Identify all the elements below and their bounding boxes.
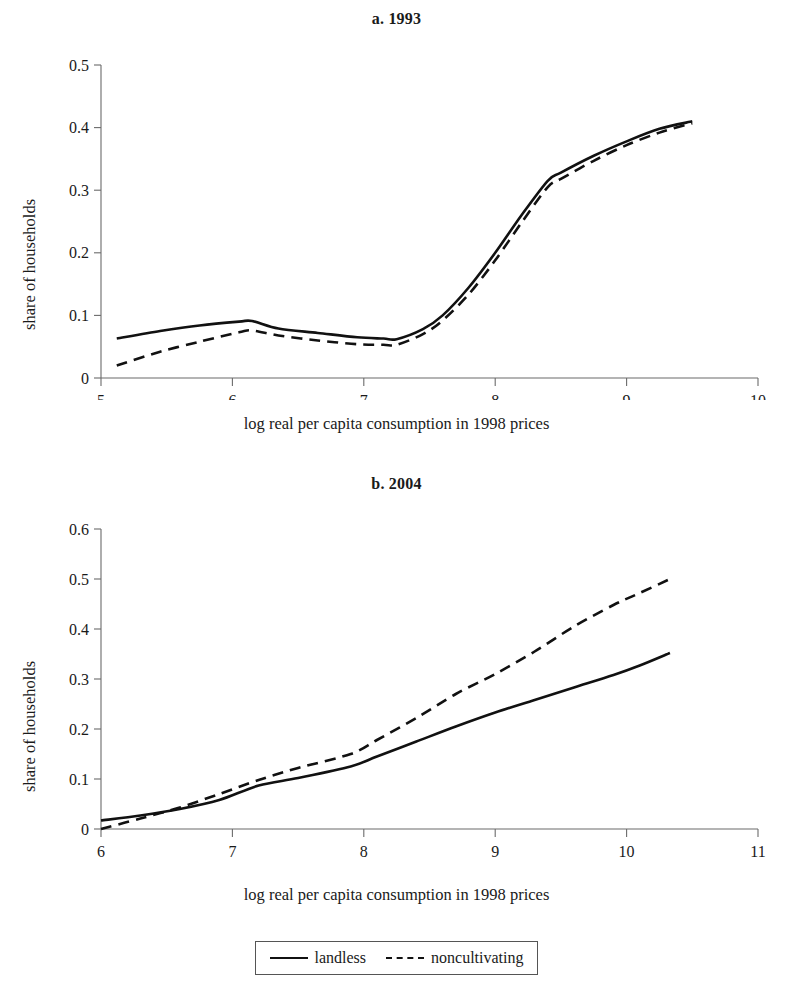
x-tick-label: 8 — [360, 843, 368, 860]
legend-entry-noncultivating: noncultivating — [386, 949, 523, 967]
x-tick-label: 9 — [491, 843, 499, 860]
x-tick-label: 10 — [750, 392, 766, 400]
y-tick-label: 0.3 — [69, 671, 89, 688]
y-tick-label: 0 — [81, 821, 89, 838]
y-tick-label: 0.2 — [69, 721, 89, 738]
x-tick-label: 7 — [360, 392, 368, 400]
series-line-landless — [101, 653, 670, 821]
x-tick-label: 5 — [97, 392, 105, 400]
y-axis-title-1993: share of households — [20, 199, 40, 330]
y-tick-label: 0.1 — [69, 307, 89, 324]
y-tick-label: 0.1 — [69, 771, 89, 788]
x-axis-title-1993: log real per capita consumption in 1998 … — [0, 414, 793, 434]
chart-legend: landless noncultivating — [255, 941, 538, 975]
series-line-landless — [117, 121, 693, 339]
x-axis-title-2004: log real per capita consumption in 1998 … — [0, 885, 793, 905]
x-tick-label: 8 — [491, 392, 499, 400]
y-axis-title-2004: share of households — [20, 661, 40, 792]
plot-area-2004: 00.10.20.30.40.50.667891011 — [0, 462, 793, 872]
legend-entry-landless: landless — [270, 949, 367, 967]
y-tick-label: 0.6 — [69, 521, 89, 538]
legend-label-landless: landless — [315, 949, 367, 967]
y-tick-label: 0.4 — [69, 621, 89, 638]
y-tick-label: 0.5 — [69, 57, 89, 74]
y-tick-label: 0 — [81, 370, 89, 387]
x-tick-label: 6 — [97, 843, 105, 860]
series-line-noncultivating — [101, 579, 670, 829]
chart-panel-2004: b. 2004 00.10.20.30.40.50.667891011 shar… — [0, 462, 793, 932]
x-tick-label: 11 — [750, 843, 765, 860]
chart-panel-1993: a. 1993 00.10.20.30.40.55678910 share of… — [0, 0, 793, 462]
series-line-noncultivating — [117, 123, 693, 365]
y-tick-label: 0.5 — [69, 571, 89, 588]
solid-line-icon — [270, 957, 308, 959]
dashed-line-icon — [386, 957, 424, 959]
y-tick-label: 0.3 — [69, 182, 89, 199]
y-tick-label: 0.4 — [69, 119, 89, 136]
y-tick-label: 0.2 — [69, 244, 89, 261]
plot-area-1993: 00.10.20.30.40.55678910 — [0, 0, 793, 400]
x-tick-label: 7 — [228, 843, 236, 860]
x-tick-label: 10 — [619, 843, 635, 860]
x-tick-label: 6 — [228, 392, 236, 400]
x-tick-label: 9 — [623, 392, 631, 400]
legend-label-noncultivating: noncultivating — [431, 949, 523, 967]
